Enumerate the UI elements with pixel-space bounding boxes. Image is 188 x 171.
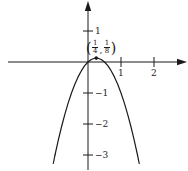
vertex-close-paren: ) <box>111 41 116 55</box>
x-tick-label-1: 1 <box>118 69 124 78</box>
vertex-y-fraction: 1 8 <box>104 40 110 56</box>
y-tick-label-neg3: −3 <box>95 151 108 160</box>
parabola-left-tail <box>53 155 55 164</box>
vertex-coordinate-label: ( 1 4 , 1 8 ) <box>86 40 116 56</box>
vertex-x-denominator: 4 <box>92 48 98 55</box>
x-tick-label-2: 2 <box>151 69 157 78</box>
y-tick-label-neg1: −1 <box>95 89 108 98</box>
vertex-comma: , <box>99 46 102 56</box>
x-axis-arrow-icon <box>177 59 187 65</box>
vertex-open-paren: ( <box>86 41 91 55</box>
vertex-y-numerator: 1 <box>104 40 110 47</box>
parabola-figure: 1 −1 −2 −3 1 2 ( 1 4 , 1 8 ) <box>0 0 188 171</box>
plot-canvas <box>0 0 188 171</box>
y-tick-label-neg2: −2 <box>95 120 108 129</box>
y-tick-label-1: 1 <box>95 27 101 36</box>
vertex-x-fraction: 1 4 <box>92 40 98 56</box>
parabola-curve <box>55 58 139 163</box>
vertex-y-denominator: 8 <box>104 48 110 55</box>
y-axis-arrow-icon <box>85 1 91 11</box>
vertex-point-marker <box>94 56 98 60</box>
vertex-x-numerator: 1 <box>92 40 98 47</box>
